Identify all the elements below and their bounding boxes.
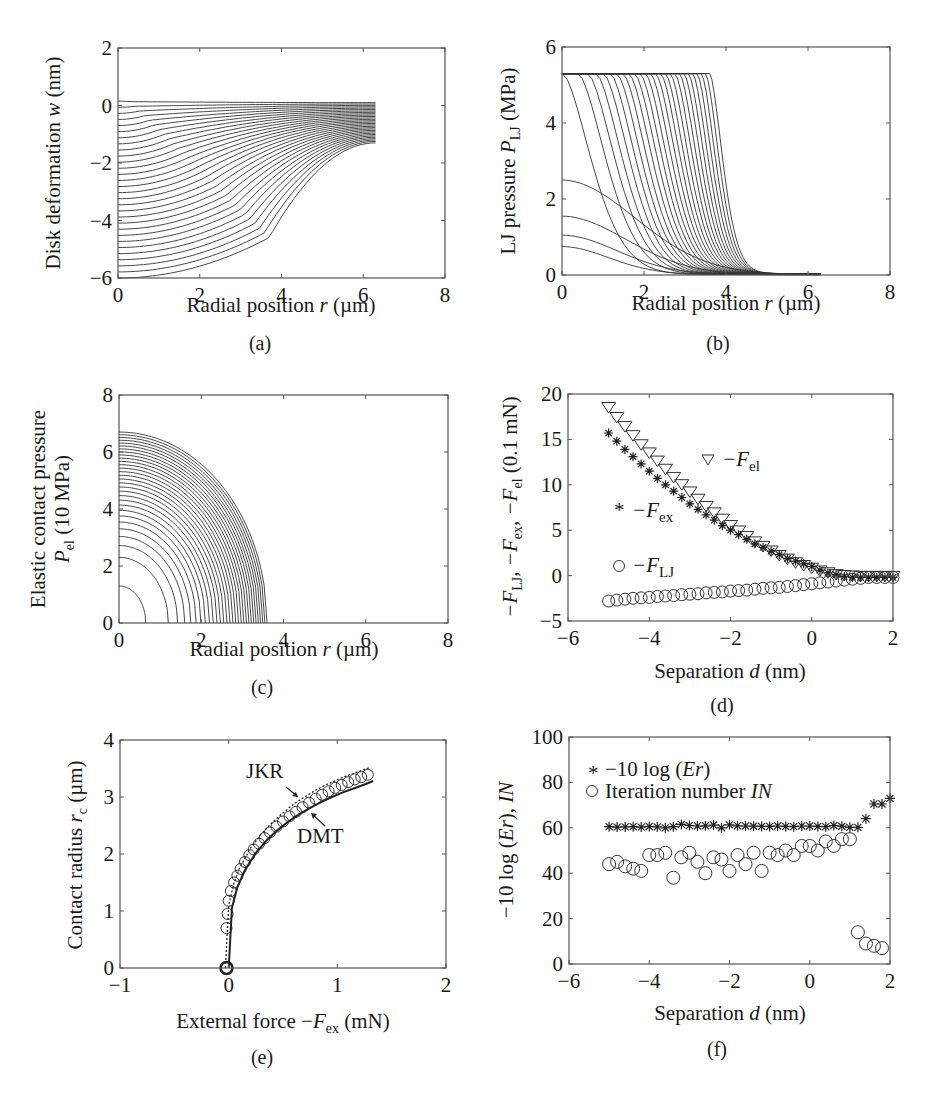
- panel-c-elastic-pressure: 0246802468 Radial position r (µm) Elasti…: [26, 383, 453, 699]
- y-tick-label: 0: [104, 956, 115, 980]
- plot-frame: [118, 48, 445, 278]
- svg-text:Iteration number IN: Iteration number IN: [605, 779, 773, 803]
- x-tick-label: 2: [885, 969, 896, 993]
- y-tick-label: 4: [546, 111, 557, 135]
- panel-b-lj-pressure: 024680246 Radial position r (µm) LJ pres…: [496, 35, 895, 355]
- panel-d-forces: −6−4−202−505101520 −Fel * −Fex −FLJ Sepa…: [498, 382, 900, 717]
- y-axis-label: Contact radius rc (µm): [63, 760, 90, 949]
- axis-ticks: −6−4−202−505101520: [540, 382, 899, 650]
- x-axis-label: Radial position r (µm): [187, 293, 376, 317]
- panel-caption: (f): [707, 1038, 727, 1061]
- star-marker-icon: *: [614, 498, 625, 522]
- x-axis-label: External force −Fex (mN): [176, 1009, 389, 1036]
- y-tick-label: 2: [103, 554, 114, 578]
- y-axis-label: −FLJ, −Fex, −Fel (0.1 mN): [498, 396, 525, 618]
- x-tick-label: 0: [557, 280, 568, 304]
- x-tick-label: 2: [888, 626, 899, 650]
- y-tick-label: 0: [103, 611, 114, 635]
- y-tick-label: 2: [546, 187, 557, 211]
- y-tick-label: 8: [103, 383, 114, 407]
- y-tick-label: 10: [541, 473, 562, 497]
- y-tick-label: 20: [542, 907, 563, 931]
- y-tick-label: 100: [532, 725, 564, 749]
- x-tick-label: 0: [223, 973, 234, 997]
- plot-frame: [562, 47, 890, 275]
- y-tick-label: 0: [546, 263, 557, 287]
- x-tick-label: 0: [113, 283, 124, 307]
- x-axis-label: Radial position r (µm): [632, 291, 821, 315]
- y-tick-label: 15: [541, 427, 562, 451]
- y-tick-label: −6: [90, 266, 112, 290]
- y-axis-label-line1: Elastic contact pressure: [26, 410, 50, 608]
- x-axis-label: Radial position r (µm): [190, 637, 379, 661]
- svg-text:−Fex: −Fex: [632, 498, 674, 525]
- x-tick-label: −4: [638, 626, 661, 650]
- deformation-curves: [118, 101, 376, 278]
- y-tick-label: 40: [542, 861, 563, 885]
- y-tick-label: 80: [542, 770, 563, 794]
- y-tick-label: 20: [541, 382, 562, 406]
- x-tick-label: −2: [719, 626, 741, 650]
- figure-canvas: 02468−6−4−202 Radial position r (µm) Dis…: [0, 0, 928, 1102]
- y-tick-label: 6: [546, 35, 557, 59]
- x-tick-label: −4: [638, 969, 661, 993]
- legend-f-el: −Fel: [702, 447, 760, 474]
- panel-caption: (e): [251, 1046, 273, 1069]
- elastic-pressure-curves: [119, 432, 267, 623]
- y-axis-label: −10 log (Er), IN: [494, 781, 518, 919]
- plot-frame: [119, 395, 448, 623]
- y-tick-label: 60: [542, 816, 563, 840]
- y-tick-label: −4: [90, 209, 113, 233]
- lj-pressure-curves: [562, 74, 820, 275]
- axis-ticks: 0246802468: [103, 383, 454, 652]
- x-axis-label: Separation d (nm): [654, 1001, 806, 1025]
- circle-marker-icon: [587, 786, 598, 797]
- y-axis-label-line2: Pel (10 MPa): [50, 455, 77, 564]
- star-marker-icon: *: [588, 761, 599, 785]
- annotation-jkr: JKR: [246, 759, 283, 783]
- legend-iteration: Iteration number IN: [587, 779, 773, 803]
- panel-caption: (d): [710, 694, 733, 717]
- annotation-dmt: DMT: [297, 824, 344, 848]
- x-tick-label: 8: [440, 283, 451, 307]
- circle-marker-icon: [614, 561, 625, 572]
- y-tick-label: 2: [102, 36, 113, 60]
- panel-a-disk-deformation: 02468−6−4−202 Radial position r (µm) Dis…: [41, 36, 450, 355]
- y-tick-label: 3: [104, 785, 115, 809]
- x-tick-label: 0: [807, 626, 818, 650]
- svg-text:−FLJ: −FLJ: [632, 553, 674, 580]
- y-axis-label: Disk deformation w (nm): [41, 57, 65, 270]
- y-tick-label: −2: [90, 151, 112, 175]
- y-tick-label: 6: [103, 440, 114, 464]
- legend-f-ex: * −Fex: [614, 498, 674, 525]
- panel-f-error-iterations: −6−4−202020406080100 * −10 log (Er) Iter…: [494, 725, 895, 1061]
- x-axis-label: Separation d (nm): [654, 659, 806, 683]
- y-tick-label: 0: [552, 564, 563, 588]
- y-tick-label: 1: [104, 899, 115, 923]
- triangle-marker-icon: [702, 455, 714, 465]
- y-tick-label: 4: [104, 728, 115, 752]
- svg-text:−10 log (Er): −10 log (Er): [605, 757, 710, 781]
- y-tick-label: 0: [102, 94, 113, 118]
- x-tick-label: 1: [332, 973, 343, 997]
- axis-ticks: −6−4−202020406080100: [532, 725, 896, 993]
- x-tick-label: 2: [441, 973, 452, 997]
- error-iteration-markers: [603, 793, 895, 954]
- panel-caption: (c): [251, 676, 273, 699]
- y-tick-label: −5: [540, 609, 562, 633]
- panel-caption: (b): [706, 332, 729, 355]
- panel-caption: (a): [249, 332, 271, 355]
- x-tick-label: 0: [114, 628, 125, 652]
- x-tick-label: 0: [805, 969, 816, 993]
- axis-ticks: 02468−6−4−202: [90, 36, 451, 307]
- y-tick-label: 2: [104, 842, 115, 866]
- svg-text:−Fel: −Fel: [722, 447, 760, 474]
- legend-f-lj: −FLJ: [614, 553, 675, 580]
- x-tick-label: 8: [443, 628, 454, 652]
- y-tick-label: 0: [553, 952, 564, 976]
- x-tick-label: −2: [718, 969, 740, 993]
- contact-radius-series: [220, 767, 373, 974]
- y-tick-label: 5: [552, 518, 563, 542]
- y-tick-label: 4: [103, 497, 114, 521]
- x-tick-label: 8: [885, 280, 896, 304]
